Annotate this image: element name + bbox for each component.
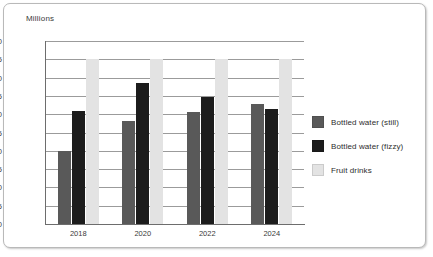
bar bbox=[136, 83, 149, 224]
y-axis-tick-label: 0 bbox=[0, 220, 2, 229]
bar-group bbox=[187, 41, 228, 224]
legend-item[interactable]: Bottled water (fizzy) bbox=[312, 140, 403, 152]
y-axis-tick-label: 50 bbox=[0, 37, 2, 46]
legend-label: Bottled water (still) bbox=[331, 118, 399, 127]
bar bbox=[279, 59, 292, 224]
y-axis-tick-label: 45 bbox=[0, 55, 2, 64]
chart-legend: Bottled water (still)Bottled water (fizz… bbox=[312, 116, 403, 176]
plot-area bbox=[46, 41, 304, 224]
y-axis-tick-label: 35 bbox=[0, 91, 2, 100]
y-axis-tick-label: 25 bbox=[0, 128, 2, 137]
x-axis-line bbox=[45, 224, 305, 225]
legend-swatch-still bbox=[312, 116, 324, 128]
bar bbox=[58, 151, 71, 224]
y-axis-tick-label: 40 bbox=[0, 73, 2, 82]
bar bbox=[215, 59, 228, 224]
bar bbox=[72, 111, 85, 224]
legend-swatch-fruit bbox=[312, 164, 324, 176]
legend-label: Fruit drinks bbox=[331, 166, 372, 175]
legend-label: Bottled water (fizzy) bbox=[331, 142, 403, 151]
legend-item[interactable]: Bottled water (still) bbox=[312, 116, 403, 128]
y-axis-tick-label: 30 bbox=[0, 110, 2, 119]
x-axis-tick-label: 2020 bbox=[134, 229, 151, 238]
y-axis-tick-label: 20 bbox=[0, 146, 2, 155]
legend-swatch-fizzy bbox=[312, 140, 324, 152]
x-axis-tick-labels: 2018202020222024 bbox=[46, 229, 304, 243]
bar bbox=[265, 109, 278, 224]
bar bbox=[86, 59, 99, 224]
bar bbox=[251, 104, 264, 224]
bar bbox=[122, 121, 135, 224]
legend-item[interactable]: Fruit drinks bbox=[312, 164, 403, 176]
bar-group bbox=[251, 41, 292, 224]
x-axis-tick-label: 2024 bbox=[263, 229, 280, 238]
bar bbox=[201, 97, 214, 224]
bar-group bbox=[58, 41, 99, 224]
y-axis-tick-label: 10 bbox=[0, 183, 2, 192]
y-axis-tick-label: 15 bbox=[0, 165, 2, 174]
y-axis-tick-label: 5 bbox=[0, 201, 2, 210]
bar bbox=[187, 112, 200, 224]
x-axis-tick-label: 2022 bbox=[199, 229, 216, 238]
bar bbox=[150, 59, 163, 224]
x-axis-tick-label: 2018 bbox=[70, 229, 87, 238]
y-axis-unit-label: Millions bbox=[26, 14, 54, 23]
bar-group bbox=[122, 41, 163, 224]
chart-card: Millions 05101520253035404550 2018202020… bbox=[3, 3, 426, 248]
